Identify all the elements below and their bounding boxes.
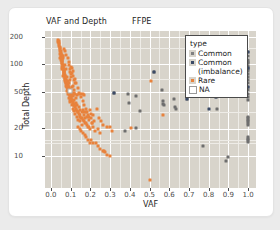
x-tick-mark bbox=[110, 188, 111, 191]
data-point bbox=[61, 68, 64, 71]
x-tick-mark bbox=[248, 188, 249, 191]
data-point bbox=[124, 129, 127, 132]
data-point bbox=[81, 131, 84, 134]
legend-item-label: Common bbox=[198, 58, 232, 67]
data-point bbox=[227, 155, 230, 158]
data-point bbox=[64, 64, 67, 67]
gridline-major-v bbox=[150, 31, 151, 188]
x-tick-mark bbox=[90, 188, 91, 191]
legend-item-label: Rare bbox=[198, 76, 215, 85]
data-point bbox=[201, 144, 204, 147]
gridline-major-v bbox=[110, 31, 111, 188]
legend-key-swatch bbox=[189, 59, 196, 66]
legend-item[interactable]: Common bbox=[189, 58, 243, 67]
y-tick-mark bbox=[42, 92, 45, 93]
data-point bbox=[163, 104, 166, 107]
legend-title: type bbox=[189, 39, 243, 48]
x-tick-mark bbox=[51, 188, 52, 191]
legend-key-swatch bbox=[189, 50, 196, 57]
data-point bbox=[109, 125, 112, 128]
gridline-minor-v bbox=[159, 31, 160, 188]
gridline-minor-v bbox=[120, 31, 121, 188]
facet-strip-label: FFPE bbox=[132, 17, 151, 26]
data-point bbox=[76, 87, 79, 90]
data-point bbox=[83, 111, 86, 114]
data-point bbox=[81, 99, 84, 102]
y-tick-label: 50 bbox=[0, 88, 23, 96]
data-point bbox=[99, 131, 102, 134]
data-point bbox=[84, 107, 87, 110]
data-point bbox=[88, 141, 91, 144]
x-tick-mark bbox=[150, 188, 151, 191]
gridline-major-v bbox=[51, 31, 52, 188]
data-point bbox=[59, 45, 62, 48]
data-point bbox=[106, 125, 109, 128]
data-point bbox=[247, 120, 250, 123]
gridline-major-h bbox=[45, 129, 256, 130]
y-tick-mark bbox=[42, 156, 45, 157]
data-point bbox=[108, 155, 111, 158]
data-point bbox=[102, 123, 105, 126]
data-point bbox=[247, 137, 250, 140]
legend-item[interactable]: Rare bbox=[189, 76, 243, 85]
scatter-figure: VAF and Depth FFPE Total Depth VAF 10205… bbox=[9, 8, 273, 216]
data-point bbox=[134, 95, 137, 98]
data-point bbox=[68, 88, 73, 93]
legend-item-label-continued: (imbalance) bbox=[189, 67, 243, 76]
data-point bbox=[77, 125, 80, 128]
data-point bbox=[92, 114, 95, 117]
y-tick-mark bbox=[42, 64, 45, 65]
data-point bbox=[83, 94, 86, 97]
gridline-minor-v bbox=[179, 31, 180, 188]
y-tick-mark bbox=[42, 37, 45, 38]
y-tick-mark bbox=[42, 128, 45, 129]
data-point bbox=[59, 49, 62, 52]
data-point bbox=[247, 123, 250, 126]
gridline-major-v bbox=[130, 31, 131, 188]
legend-key-marker bbox=[191, 79, 194, 82]
x-tick-mark bbox=[228, 188, 229, 191]
legend-item-label: NA bbox=[199, 85, 210, 94]
data-point bbox=[113, 91, 116, 94]
data-point bbox=[68, 98, 71, 101]
legend-key-marker bbox=[191, 52, 194, 55]
data-point bbox=[92, 125, 95, 128]
y-tick-label: 100 bbox=[0, 60, 23, 68]
y-axis-label: Total Depth bbox=[22, 61, 31, 151]
data-point bbox=[74, 81, 77, 84]
data-point bbox=[72, 94, 75, 97]
legend: type CommonCommon(imbalance)RareNA bbox=[185, 35, 248, 98]
data-point bbox=[225, 160, 228, 163]
x-tick-mark bbox=[130, 188, 131, 191]
data-point bbox=[57, 39, 60, 42]
legend-item-label: Common bbox=[198, 49, 232, 58]
data-point bbox=[66, 57, 69, 60]
legend-key-swatch bbox=[189, 86, 197, 94]
data-point bbox=[60, 54, 63, 57]
data-point bbox=[80, 123, 83, 126]
legend-item[interactable]: NA bbox=[189, 85, 243, 94]
data-point bbox=[89, 108, 92, 111]
data-point bbox=[162, 114, 165, 117]
data-point bbox=[152, 70, 155, 73]
y-tick-label: 20 bbox=[0, 124, 23, 132]
data-point bbox=[207, 107, 210, 110]
y-tick-label: 10 bbox=[0, 152, 23, 160]
data-point bbox=[97, 127, 100, 130]
x-axis-label: VAF bbox=[45, 200, 256, 209]
data-point bbox=[174, 107, 177, 110]
chart-card: VAF and Depth FFPE Total Depth VAF 10205… bbox=[8, 7, 274, 217]
legend-key-swatch bbox=[189, 77, 196, 84]
x-tick-mark bbox=[71, 188, 72, 191]
data-point bbox=[149, 80, 152, 83]
x-tick-mark bbox=[189, 188, 190, 191]
screenshot-root: VAF and Depth FFPE Total Depth VAF 10205… bbox=[0, 0, 280, 230]
gridline-major-h bbox=[45, 156, 256, 157]
data-point bbox=[68, 68, 71, 71]
legend-key-marker bbox=[191, 61, 194, 64]
data-point bbox=[90, 121, 93, 124]
legend-item[interactable]: Common bbox=[189, 49, 243, 58]
y-tick-label: 200 bbox=[0, 33, 23, 41]
data-point bbox=[61, 58, 64, 61]
chart-title: VAF and Depth bbox=[46, 17, 107, 26]
